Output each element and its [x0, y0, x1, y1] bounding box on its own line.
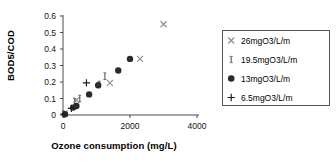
data-point-circle — [115, 67, 121, 73]
legend-entry-6-5[interactable]: 6.5mgO3/L/m — [223, 88, 331, 107]
chart-figure: BOD5/COD Ozone consumption (mg/L) 0.6 0.… — [0, 0, 336, 162]
data-point-circle — [127, 56, 133, 62]
legend-label: 13mgO3/L/m — [241, 74, 290, 84]
data-point-x-cross — [161, 21, 167, 27]
y-tick-label: 0.6 — [30, 11, 56, 21]
x-tick-label: 4000 — [180, 121, 214, 131]
y-tick-label: 0.4 — [30, 44, 56, 54]
legend-label: 6.5mgO3/L/m — [241, 93, 293, 103]
x-tick-label: 0 — [46, 121, 80, 131]
y-tick-label: 0 — [30, 110, 56, 120]
data-point-x-cross — [107, 80, 113, 86]
x-tick-label: 2000 — [113, 121, 147, 131]
legend-entry-26[interactable]: 26mgO3/L/m — [223, 31, 331, 50]
y-tick-label: 0.1 — [30, 94, 56, 104]
chart-legend: 26mgO3/L/m 19.5mgO3/L/m 13mgO3/L/m — [222, 30, 330, 106]
x-cross-icon — [223, 31, 241, 50]
filled-circle-icon — [223, 69, 241, 88]
legend-label: 19.5mgO3/L/m — [241, 55, 297, 65]
y-tick-label: 0.2 — [30, 77, 56, 87]
legend-entry-19-5[interactable]: 19.5mgO3/L/m — [223, 50, 331, 69]
y-tick-label: 0.5 — [30, 28, 56, 38]
plus-icon — [223, 88, 241, 107]
legend-label: 26mgO3/L/m — [241, 36, 290, 46]
data-point-circle — [86, 91, 92, 97]
data-point-circle — [95, 82, 101, 88]
vertical-bar-icon — [223, 50, 241, 69]
data-point-plus — [83, 79, 90, 86]
y-tick-label: 0.3 — [30, 61, 56, 71]
data-point-x-cross — [137, 56, 143, 62]
legend-entry-13[interactable]: 13mgO3/L/m — [223, 69, 331, 88]
